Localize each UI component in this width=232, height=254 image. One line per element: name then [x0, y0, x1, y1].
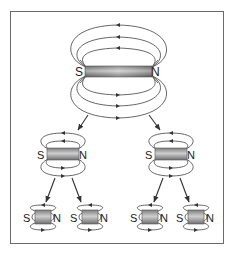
- south-pole-label: S: [130, 212, 137, 224]
- south-pole-label: S: [23, 212, 30, 224]
- north-pole-label: N: [206, 212, 214, 224]
- bar-magnet: [47, 148, 79, 160]
- south-pole-label: S: [176, 212, 183, 224]
- bar-magnet: [35, 210, 51, 224]
- diagram-frame: [11, 12, 224, 244]
- bar-magnet: [188, 210, 204, 224]
- south-pole-label: S: [145, 149, 152, 161]
- north-pole-label: N: [53, 212, 61, 224]
- south-pole-label: S: [70, 212, 77, 224]
- south-pole-label: S: [37, 149, 44, 161]
- north-pole-label: N: [187, 149, 195, 161]
- north-pole-label: N: [151, 65, 160, 79]
- north-pole-label: N: [79, 149, 87, 161]
- bar-magnet: [82, 210, 98, 224]
- magnet-division-diagram: S N S N S N: [0, 0, 232, 254]
- north-pole-label: N: [160, 212, 168, 224]
- bar-magnet: [142, 210, 158, 224]
- north-pole-label: N: [100, 212, 108, 224]
- south-pole-label: S: [75, 65, 83, 79]
- bar-magnet: [155, 148, 187, 160]
